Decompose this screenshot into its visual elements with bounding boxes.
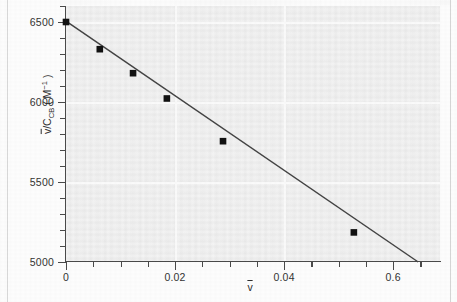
fit-line-segment — [66, 21, 418, 262]
fit-line — [66, 21, 418, 262]
data-point-marker-4 — [220, 138, 227, 145]
data-point-marker-0 — [63, 19, 70, 26]
data-point-marker-5 — [351, 229, 358, 236]
data-point-markers — [63, 19, 357, 236]
data-point-marker-2 — [130, 70, 137, 77]
figure-frame: 5000550060006500 00.020.040.6 v/CCB ( M−… — [0, 0, 457, 302]
series-layer — [0, 0, 457, 302]
data-point-marker-1 — [97, 46, 104, 53]
data-point-marker-3 — [164, 95, 171, 102]
